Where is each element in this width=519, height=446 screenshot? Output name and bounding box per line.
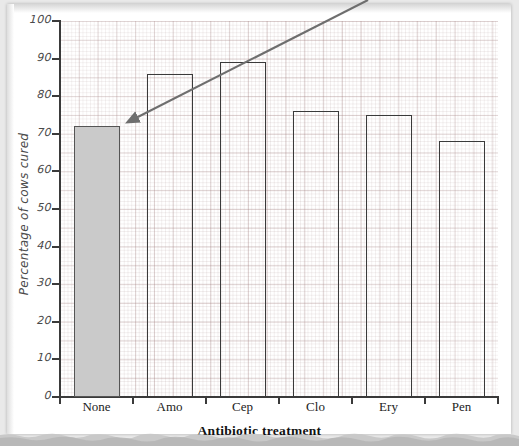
y-axis-tick-label: 10 (18, 351, 53, 364)
y-axis-tick-label: 0 (18, 389, 53, 402)
bar-cep (220, 62, 266, 397)
bar-none (74, 126, 120, 397)
y-axis-tick (52, 208, 61, 210)
x-axis-title: Antibiotic treatment (0, 423, 519, 439)
y-axis-tick (52, 246, 61, 248)
y-axis-tick-label: 100 (18, 13, 53, 26)
y-axis-title: Percentage of cows cured (17, 114, 31, 314)
y-axis-tick (52, 58, 61, 60)
bar-ery (366, 115, 412, 397)
y-axis-tick-label: 80 (18, 88, 53, 101)
y-axis-tick (52, 20, 61, 22)
x-axis-tick-label: None (60, 399, 133, 415)
x-axis-tick-label: Clo (279, 399, 352, 415)
y-axis-tick (52, 358, 61, 360)
y-axis-tick (52, 283, 61, 285)
y-axis-tick-label: 90 (18, 51, 53, 64)
plot-area (60, 21, 498, 397)
x-axis-tick-label: Pen (425, 399, 498, 415)
bar-amo (147, 74, 193, 397)
x-axis-tick-label: Cep (206, 399, 279, 415)
x-axis-tick-label: Ery (352, 399, 425, 415)
bar-clo (293, 111, 339, 397)
bar-pen (439, 141, 485, 397)
paper-top-shadow (7, 4, 511, 13)
graph-paper-grid (60, 21, 498, 397)
chart-page: 0102030405060708090100 NoneAmoCepCloEryP… (0, 0, 519, 446)
y-axis-tick (52, 95, 61, 97)
y-axis-tick (52, 321, 61, 323)
y-axis-tick (52, 170, 61, 172)
y-axis-tick-label: 20 (18, 314, 53, 327)
x-axis-tick-label: Amo (133, 399, 206, 415)
y-axis-tick (52, 133, 61, 135)
